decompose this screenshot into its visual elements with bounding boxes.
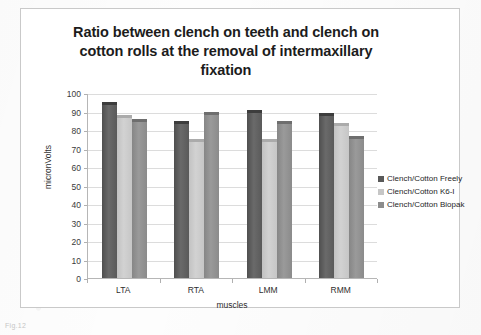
bar xyxy=(247,110,262,278)
x-axis-tick-mark xyxy=(377,279,378,283)
bar-cap xyxy=(117,115,132,118)
x-axis-title: muscles xyxy=(87,300,377,310)
y-axis-tick-label: 0 xyxy=(55,274,81,284)
bar xyxy=(132,119,147,278)
bar xyxy=(349,136,364,278)
chart-legend: Clench/Cotton FreelyClench/Cotton K6-ICl… xyxy=(378,172,464,211)
legend-swatch-icon xyxy=(378,202,384,208)
chart-title-line-3: fixation xyxy=(51,61,401,80)
scanned-page: Ratio between clench on teeth and clench… xyxy=(0,0,481,335)
figure-caption: Fig.12 xyxy=(5,322,26,329)
legend-item-label: Clench/Cotton K6-I xyxy=(387,187,455,196)
plot-area xyxy=(87,94,377,279)
bar-cap xyxy=(204,112,219,115)
bar-cap xyxy=(247,110,262,113)
chart-title-line-2: cotton rolls at the removal of intermaxi… xyxy=(51,42,401,61)
bar xyxy=(204,112,219,279)
chart-frame: Ratio between clench on teeth and clench… xyxy=(20,8,460,308)
bar xyxy=(319,113,334,278)
x-axis-tick-mark xyxy=(305,279,306,283)
y-axis-title: micronVolts xyxy=(43,145,53,189)
bar-cap xyxy=(174,121,189,124)
y-axis-tick-label: 30 xyxy=(55,219,81,229)
x-axis-tick-label: LMM xyxy=(233,285,303,295)
bar xyxy=(102,102,117,278)
bar-group xyxy=(233,94,306,278)
y-axis-tick-label: 100 xyxy=(55,89,81,99)
y-axis-tick-label: 20 xyxy=(55,237,81,247)
y-axis-tick-label: 40 xyxy=(55,200,81,210)
bar-cap xyxy=(349,136,364,139)
y-axis-tick-label: 10 xyxy=(55,256,81,266)
bar-group xyxy=(161,94,234,278)
bar-cap xyxy=(102,102,117,105)
bar-cap xyxy=(262,139,277,142)
chart-title: Ratio between clench on teeth and clench… xyxy=(51,23,401,80)
legend-swatch-icon xyxy=(378,176,384,182)
bar xyxy=(117,115,132,278)
legend-item-label: Clench/Cotton Biopak xyxy=(387,200,464,209)
bar-cap xyxy=(189,139,204,142)
bar-group xyxy=(306,94,379,278)
x-axis-tick-mark xyxy=(232,279,233,283)
bar xyxy=(174,121,189,278)
bar-cap xyxy=(132,119,147,122)
legend-swatch-icon xyxy=(378,189,384,195)
y-axis-tick-label: 70 xyxy=(55,145,81,155)
legend-item: Clench/Cotton Freely xyxy=(378,172,464,185)
bar-group xyxy=(88,94,161,278)
bar xyxy=(262,139,277,278)
x-axis-tick-label: RTA xyxy=(161,285,231,295)
bar-cap xyxy=(319,113,334,116)
bar xyxy=(334,123,349,278)
x-axis-tick-mark xyxy=(87,279,88,283)
bar xyxy=(189,139,204,278)
x-axis-tick-label: LTA xyxy=(88,285,158,295)
bar-cap xyxy=(277,121,292,124)
legend-item: Clench/Cotton K6-I xyxy=(378,185,464,198)
y-axis-tick-label: 90 xyxy=(55,108,81,118)
x-axis-tick-mark xyxy=(160,279,161,283)
y-axis-tick-label: 60 xyxy=(55,163,81,173)
chart-title-line-1: Ratio between clench on teeth and clench… xyxy=(51,23,401,42)
x-axis-tick-label: RMM xyxy=(306,285,376,295)
y-axis-tick-label: 50 xyxy=(55,182,81,192)
legend-item-label: Clench/Cotton Freely xyxy=(387,174,462,183)
bar xyxy=(277,121,292,278)
y-axis-tick-label: 80 xyxy=(55,126,81,136)
legend-item: Clench/Cotton Biopak xyxy=(378,198,464,211)
bar-cap xyxy=(334,123,349,126)
